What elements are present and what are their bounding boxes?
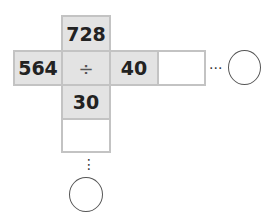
operator-cell: ÷ <box>61 50 111 86</box>
bottom-number-cell: 30 <box>61 84 111 120</box>
top-number-cell: 728 <box>61 15 111 52</box>
vertical-dots: ⋮ <box>82 157 96 171</box>
bottom-answer-circle[interactable] <box>69 177 103 212</box>
left-number-cell: 564 <box>13 50 63 86</box>
bottom-answer-cell[interactable] <box>61 118 111 153</box>
horizontal-dots: ··· <box>209 61 222 75</box>
right-answer-cell[interactable] <box>157 50 206 86</box>
right-number-cell: 40 <box>109 50 159 86</box>
right-answer-circle[interactable] <box>228 50 261 85</box>
